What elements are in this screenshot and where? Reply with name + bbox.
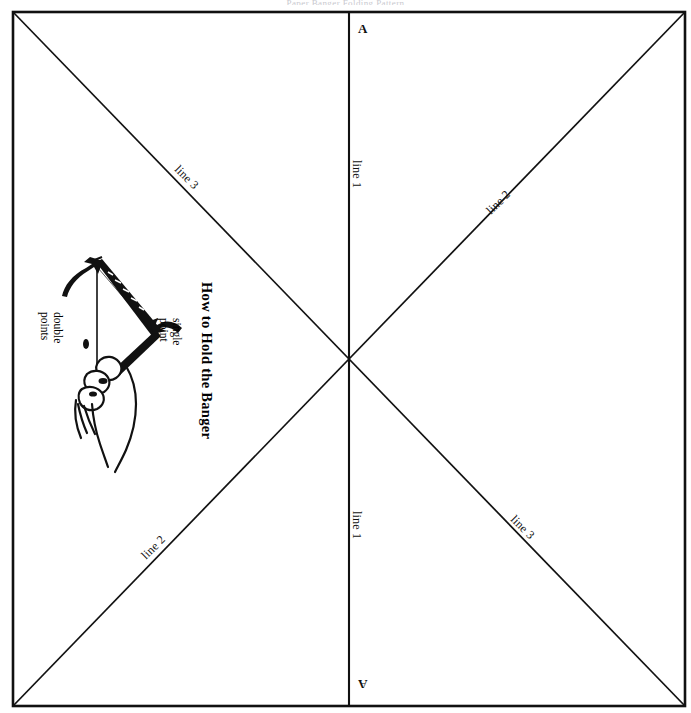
illustration-heading: How to Hold the Banger [198, 282, 215, 439]
corner-mark-bottom-A: A [358, 678, 368, 691]
hand-icon [75, 357, 136, 472]
callout-double-points: double points [38, 312, 64, 343]
callout-double-points-line-1: double [51, 312, 64, 343]
corner-mark-top-A: A [358, 22, 368, 35]
folding-diagram-page: Paper Banger Folding Pattern A A line 3 … [0, 0, 691, 713]
fold-label-line1-upper: line 1 [351, 160, 363, 188]
fold-label-line1-lower: line 1 [351, 511, 363, 539]
callout-single-point: single point [157, 318, 183, 345]
callout-single-point-line-2: point [157, 318, 170, 345]
callout-single-point-line-1: single [170, 318, 183, 345]
callout-double-points-line-2: points [38, 312, 51, 343]
